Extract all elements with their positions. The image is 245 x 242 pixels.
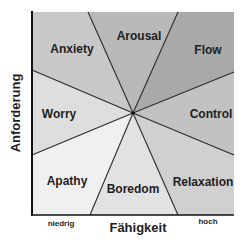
label-anxiety: Anxiety — [50, 42, 94, 56]
x-tick-high: hoch — [198, 217, 217, 226]
x-axis-label: Fähigkeit — [109, 220, 167, 235]
label-control: Control — [190, 107, 233, 121]
flow-diagram: Anxiety Arousal Flow Control Relaxation … — [0, 0, 245, 242]
x-tick-low: niedrig — [48, 219, 75, 228]
y-axis-label: Anforderung — [8, 74, 23, 153]
label-arousal: Arousal — [117, 29, 162, 43]
label-apathy: Apathy — [47, 174, 88, 188]
label-flow: Flow — [194, 43, 222, 57]
label-relaxation: Relaxation — [173, 175, 234, 189]
center-point — [131, 111, 134, 114]
label-boredom: Boredom — [107, 182, 160, 196]
label-worry: Worry — [42, 107, 77, 121]
